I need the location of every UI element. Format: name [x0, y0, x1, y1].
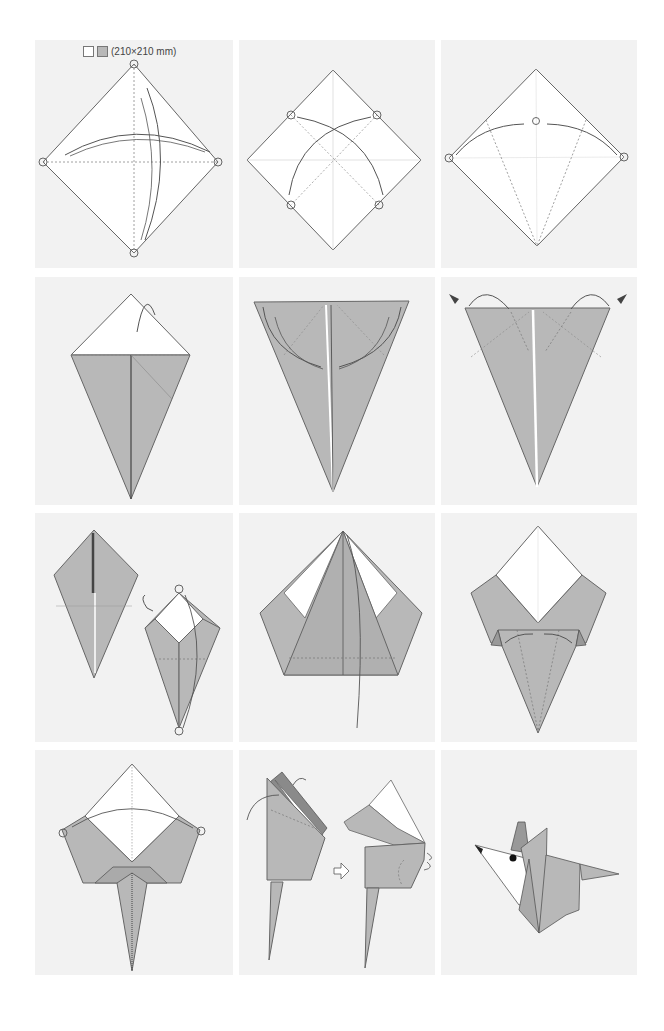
- step-10-diagram: [35, 750, 233, 975]
- next-step-arrow-icon: [334, 863, 349, 879]
- step-6-diagram: [441, 277, 637, 505]
- step-9-panel: [441, 513, 637, 742]
- step-6-panel: [441, 277, 637, 505]
- step-10-panel: [35, 750, 233, 975]
- step-12-panel: [441, 750, 637, 975]
- turn-over-icon: [143, 595, 153, 611]
- step-5-diagram: [239, 277, 435, 505]
- step-4-panel: [35, 277, 233, 505]
- mouse-eye: [510, 855, 517, 862]
- mouse-tail: [580, 864, 619, 880]
- step-3-panel: [441, 40, 637, 268]
- mouse-body: [539, 855, 580, 933]
- step-2-diagram: [239, 40, 435, 268]
- step-7-diagram: [35, 513, 233, 742]
- step-11-panel: [239, 750, 435, 975]
- step-1-panel: (210×210 mm): [35, 40, 233, 268]
- step-5-panel: [239, 277, 435, 505]
- step-11-diagram: [239, 750, 435, 975]
- step-8-panel: [239, 513, 435, 742]
- step-12-final-mouse: [441, 750, 637, 975]
- step-8-diagram: [239, 513, 435, 742]
- step-1-diagram: [35, 40, 233, 268]
- step-4-diagram: [35, 277, 233, 505]
- step-9-diagram: [441, 513, 637, 742]
- push-arrow-left-icon: [449, 294, 459, 304]
- step-2-panel: [239, 40, 435, 268]
- push-arrow-right-icon: [617, 294, 627, 304]
- step-3-diagram: [441, 40, 637, 268]
- step-7-panel: [35, 513, 233, 742]
